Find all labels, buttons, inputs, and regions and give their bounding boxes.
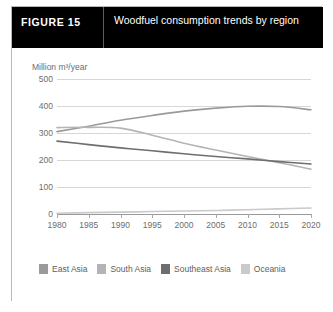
- x-axis-tick: [216, 214, 217, 218]
- figure-label-container: FIGURE 15: [12, 7, 104, 48]
- legend-swatch-icon: [241, 264, 250, 274]
- figure-number-label: FIGURE 15: [21, 16, 81, 28]
- x-axis-tick: [57, 214, 58, 218]
- y-axis-tick-label: 0: [31, 209, 53, 219]
- legend-swatch-icon: [39, 264, 48, 274]
- y-axis-tick-label: 400: [31, 101, 53, 111]
- legend-item: Oceania: [241, 264, 286, 274]
- legend-label: Southeast Asia: [174, 264, 231, 274]
- legend-swatch-icon: [161, 264, 170, 274]
- x-axis-tick-label: 1995: [143, 220, 162, 230]
- y-axis-tick-label: 100: [31, 182, 53, 192]
- legend-item: South Asia: [97, 264, 151, 274]
- series-lines: [57, 79, 311, 215]
- x-axis-tick-label: 2005: [206, 220, 225, 230]
- figure-card: FIGURE 15 Woodfuel consumption trends by…: [11, 6, 322, 301]
- x-axis-tick-label: 2010: [238, 220, 257, 230]
- plot-area: 0100200300400500 19801985199019952000200…: [31, 79, 311, 231]
- y-axis-tick-label: 200: [31, 155, 53, 165]
- legend-label: East Asia: [52, 264, 87, 274]
- series-line: [57, 127, 311, 169]
- x-axis-tick: [311, 214, 312, 218]
- y-axis-tick-label: 300: [31, 128, 53, 138]
- chart-body: Million m³/year 0100200300400500 1980198…: [12, 48, 323, 301]
- x-axis-tick-label: 2020: [302, 220, 321, 230]
- x-axis-tick: [184, 214, 185, 218]
- x-axis-tick-label: 1980: [48, 220, 67, 230]
- y-axis-tick-label: 500: [31, 74, 53, 84]
- chart-legend: East AsiaSouth AsiaSoutheast AsiaOceania: [39, 264, 285, 274]
- y-axis-title: Million m³/year: [32, 62, 87, 72]
- x-axis-tick-label: 1990: [111, 220, 130, 230]
- legend-swatch-icon: [97, 264, 106, 274]
- series-line: [57, 208, 311, 213]
- x-axis-tick: [279, 214, 280, 218]
- legend-label: Oceania: [254, 264, 286, 274]
- series-line: [57, 141, 311, 164]
- x-axis-tick-label: 1985: [79, 220, 98, 230]
- legend-item: Southeast Asia: [161, 264, 231, 274]
- figure-header: FIGURE 15 Woodfuel consumption trends by…: [12, 7, 323, 48]
- x-axis-tick-label: 2000: [175, 220, 194, 230]
- legend-label: South Asia: [110, 264, 151, 274]
- x-axis-tick: [152, 214, 153, 218]
- x-axis-tick: [248, 214, 249, 218]
- legend-item: East Asia: [39, 264, 87, 274]
- figure-title: Woodfuel consumption trends by region: [104, 7, 323, 48]
- x-axis-tick: [121, 214, 122, 218]
- x-axis-tick: [89, 214, 90, 218]
- x-axis-tick-label: 2015: [270, 220, 289, 230]
